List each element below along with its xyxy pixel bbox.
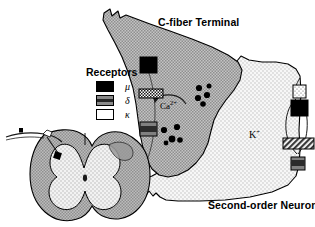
kappa-swatch-icon — [96, 109, 114, 120]
delta-receptor-presynaptic-lower[interactable] — [140, 122, 157, 136]
diagram-svg — [0, 0, 315, 227]
legend-item-kappa: κ — [96, 109, 130, 120]
figure-canvas: C-fiber Terminal Second-order Neuron Ca2… — [0, 0, 315, 227]
delta-receptor-postsynaptic[interactable] — [291, 157, 305, 170]
label-calcium-ion: Ca2+ — [160, 99, 177, 111]
legend-item-mu: μ — [96, 81, 130, 92]
legend-title: Receptors — [86, 66, 137, 78]
legend-label-mu: μ — [125, 81, 130, 92]
mu-receptor-presynaptic-upper[interactable] — [140, 57, 157, 73]
potassium-charge: + — [256, 128, 260, 135]
potassium-channel[interactable] — [283, 138, 314, 149]
legend-label-kappa: κ — [125, 109, 130, 120]
calcium-charge: 2+ — [170, 99, 177, 106]
label-second-order-neuron: Second-order Neuron — [208, 199, 315, 211]
legend-label-delta: δ — [125, 95, 130, 106]
mu-receptor-postsynaptic[interactable] — [291, 100, 308, 116]
label-potassium-ion: K+ — [249, 128, 260, 140]
delta-swatch-icon — [96, 95, 114, 106]
label-c-fiber-terminal: C-fiber Terminal — [158, 16, 239, 28]
spinal-cord-cross-section — [6, 128, 150, 221]
dorsal-root-ganglion-cell — [19, 128, 23, 133]
kappa-receptor-postsynaptic[interactable] — [293, 85, 306, 98]
legend-item-delta: δ — [96, 95, 130, 106]
calcium-symbol: Ca — [160, 101, 170, 111]
mu-swatch-icon — [96, 81, 114, 92]
calcium-channel[interactable] — [139, 89, 163, 98]
